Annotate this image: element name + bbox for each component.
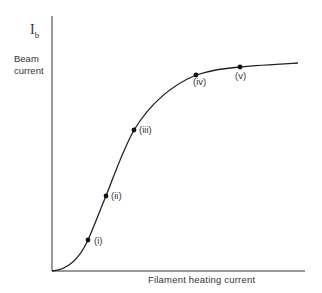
y-label-line1: Beam xyxy=(14,53,44,65)
diagram-canvas xyxy=(0,0,322,293)
x-axis-label: Filament heating current xyxy=(148,274,255,285)
point-label-v: (v) xyxy=(235,70,246,81)
point-iii-marker xyxy=(132,128,137,133)
point-label-ii: (ii) xyxy=(111,190,122,201)
point-v-marker xyxy=(238,65,243,70)
point-label-i: (i) xyxy=(94,235,102,246)
point-i-marker xyxy=(86,238,91,243)
y-axis-symbol: Ib xyxy=(30,22,39,40)
point-label-iii: (iii) xyxy=(139,124,152,135)
y-symbol-subscript: b xyxy=(35,30,40,40)
y-label-line2: current xyxy=(14,65,44,77)
y-axis-label: Beam current xyxy=(14,53,44,77)
point-label-iv: (iv) xyxy=(193,76,206,87)
point-ii-marker xyxy=(104,194,109,199)
